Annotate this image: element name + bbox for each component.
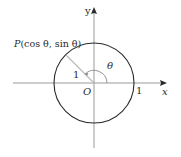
- radius-length-label: 1: [73, 69, 79, 80]
- origin-label: O: [83, 86, 91, 97]
- x-intercept-label: 1: [136, 85, 142, 96]
- y-axis-label: y: [84, 5, 91, 16]
- x-axis-label: x: [162, 86, 168, 97]
- point-p-coords: (cos θ, sin θ): [20, 38, 81, 49]
- unit-circle-diagram: y x O 1 1 θ P(cos θ, sin θ): [0, 0, 181, 157]
- radius-line: [66, 55, 94, 83]
- angle-theta-label: θ: [107, 60, 113, 71]
- diagram-canvas: y x O 1 1 θ P(cos θ, sin θ): [0, 0, 181, 157]
- y-axis-arrow-icon: [91, 7, 97, 14]
- point-p-label: P(cos θ, sin θ): [13, 38, 81, 49]
